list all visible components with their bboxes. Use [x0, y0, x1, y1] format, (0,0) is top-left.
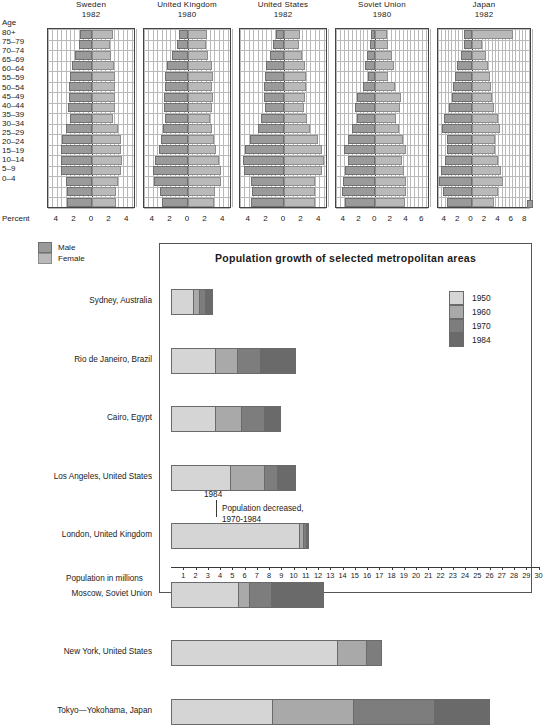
pyramid-axis-tick: 2	[451, 214, 463, 223]
pyramid-bar-row	[48, 187, 134, 196]
pyramid-country-name: United States	[239, 0, 327, 10]
pyramid-axis-tick: 2	[259, 214, 271, 223]
growth-city-label: Los Angeles, United States	[0, 472, 152, 482]
pyramid-axis-tick: 4	[146, 214, 158, 223]
age-axis-title: Age	[2, 18, 40, 28]
pyramid-bar-row	[48, 103, 134, 112]
growth-axis-tick-mark	[526, 567, 527, 570]
pyramid-bar-male	[258, 124, 284, 133]
pyramid-bar-row	[336, 82, 428, 91]
pyramid-bar-male	[273, 40, 284, 49]
pyramid-axis-tick: 2	[478, 214, 490, 223]
pyramid-bar-row	[144, 103, 230, 112]
pyramid-bar-male	[153, 166, 188, 175]
growth-axis-tick-mark	[220, 567, 221, 570]
pyramid-bar-female	[92, 135, 121, 144]
pyramid-bar-male	[61, 156, 92, 165]
pyramid-bar-female	[284, 51, 302, 60]
growth-bar-segment-1984	[271, 583, 324, 607]
pyramid-bar-row	[240, 177, 326, 186]
pyramid-axis-tick: 4	[400, 214, 412, 223]
pyramid-bar-male	[342, 187, 375, 196]
pyramid-bar-male	[172, 51, 188, 60]
percent-axis-title: Percent	[2, 214, 30, 223]
pyramid-bar-female	[375, 30, 387, 39]
pyramid-bar-row	[438, 145, 530, 154]
pyramid-bar-female	[472, 135, 496, 144]
pyramid-bar-female	[188, 72, 213, 81]
growth-axis-tick-mark	[490, 567, 491, 570]
pyramid-bar-male	[453, 82, 471, 91]
pyramid-bar-male	[70, 114, 92, 123]
growth-bar-segment-1950	[172, 290, 193, 314]
pyramid-axis-tick: 4	[337, 214, 349, 223]
pyramid-bar-male	[345, 166, 375, 175]
growth-bar	[171, 582, 324, 608]
growth-axis-tick-mark	[404, 567, 405, 570]
pyramid-bar-row	[438, 198, 530, 207]
pyramid-bar-male	[160, 187, 188, 196]
pyramid-bar-female	[188, 124, 212, 133]
growth-axis-tick-label: 30	[532, 572, 546, 580]
pyramid-bar-row	[144, 187, 230, 196]
gridline-vertical	[532, 29, 533, 207]
pyramid-bar-female	[472, 166, 502, 175]
growth-axis-tick-mark	[232, 567, 233, 570]
pyramid-bar-row	[144, 40, 230, 49]
growth-axis-tick-mark	[245, 567, 246, 570]
pyramid-bar-female	[92, 166, 121, 175]
age-group-label: 15–19	[2, 146, 40, 155]
growth-bar-segment-1970	[241, 407, 265, 431]
pyramid-bar-row	[48, 177, 134, 186]
growth-city-label: New York, United States	[0, 647, 152, 657]
pyramid-bar-female	[472, 93, 492, 102]
legend-label-1950: 1950	[472, 291, 491, 305]
pyramid-bar-male	[251, 198, 284, 207]
pyramid-bar-male	[165, 82, 188, 91]
pyramid-bar-female	[92, 124, 118, 133]
pyramid-bar-male	[270, 51, 284, 60]
pyramid-bar-male	[264, 93, 284, 102]
growth-bar-segment-1950	[172, 466, 230, 490]
pyramid-bar-row	[240, 156, 326, 165]
pyramid-bar-female	[92, 30, 113, 39]
pyramid-bar-row	[144, 135, 230, 144]
pyramid-bar-female	[188, 51, 208, 60]
pyramid-axis-tick: 6	[415, 214, 427, 223]
growth-bar-segment-1984	[260, 349, 296, 373]
pyramid-bar-row	[48, 156, 134, 165]
pyramid-axis-tick: 4	[438, 214, 450, 223]
pyramid-bar-male	[161, 135, 188, 144]
growth-axis-tick-mark	[477, 567, 478, 570]
pyramid-bar-male	[79, 40, 92, 49]
pyramid-bar-row	[336, 135, 428, 144]
pyramid-bar-male	[265, 72, 284, 81]
pyramid-bar-male	[447, 135, 471, 144]
growth-bar-segment-1970	[237, 349, 261, 373]
legend-label-male: Male	[58, 242, 75, 253]
pyramid-bar-female	[188, 93, 213, 102]
pyramid-bar-row	[240, 61, 326, 70]
growth-bar-segment-1960	[272, 700, 354, 724]
pyramid-bar-female	[188, 177, 221, 186]
growth-bar-segment-1960	[215, 407, 242, 431]
pyramid-bar-female	[284, 156, 324, 165]
pyramid-bar-female	[375, 135, 402, 144]
pyramid-bar-female	[188, 156, 219, 165]
pyramid-bar-row	[336, 93, 428, 102]
pyramid-bar-female	[375, 51, 391, 60]
growth-axis-tick-mark	[453, 567, 454, 570]
pyramid-bar-row	[240, 103, 326, 112]
pyramid-bar-row	[336, 40, 428, 49]
pyramid-bar-row	[336, 51, 428, 60]
pyramid-bar-row	[48, 61, 134, 70]
gridline-vertical	[430, 29, 431, 207]
pyramid-bar-male	[439, 177, 472, 186]
growth-city-label: Tokyo—Yokohama, Japan	[0, 706, 152, 716]
pyramid-bar-female	[188, 103, 212, 112]
pyramid-bar-female	[188, 61, 212, 70]
pyramid-bar-female	[284, 103, 304, 112]
growth-axis-title: Population in millions	[66, 574, 143, 584]
growth-city-label: Rio de Janeiro, Brazil	[0, 355, 152, 365]
pyramid-bar-male	[457, 61, 471, 70]
